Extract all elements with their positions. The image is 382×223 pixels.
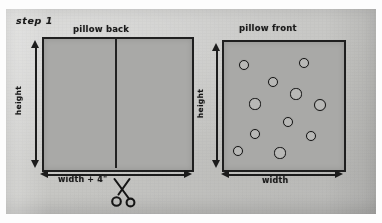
step-label: step 1 <box>16 15 53 26</box>
pillow-front-dot <box>239 60 249 70</box>
pillow-back-width-label: width + 4" <box>58 175 107 184</box>
pillow-front-dot <box>314 99 326 111</box>
diagram-page: step 1 pillow back height width + 4" pil… <box>0 0 382 223</box>
scissors-icon <box>108 176 142 210</box>
pillow-front-dot <box>283 117 293 127</box>
pillow-front-dot <box>299 58 310 69</box>
pillow-back-title: pillow back <box>73 24 129 34</box>
arrow-shaft <box>35 46 37 162</box>
arrow-head-down-icon <box>212 160 220 168</box>
pillow-front-dot <box>268 77 279 88</box>
pillow-front-dot <box>290 88 301 99</box>
arrow-head-right-icon <box>335 170 343 178</box>
arrow-head-right-icon <box>184 170 192 178</box>
pillow-front-width-label: width <box>262 176 288 185</box>
pillow-back-center-seam <box>115 37 117 168</box>
pillow-front-dot <box>274 147 285 158</box>
pillow-front-rectangle <box>222 40 346 172</box>
pillow-front-title: pillow front <box>239 23 297 33</box>
pillow-front-dot <box>250 129 260 139</box>
arrow-head-down-icon <box>31 160 39 168</box>
pillow-front-dot <box>249 98 260 109</box>
pillow-back-height-arrow <box>31 40 40 168</box>
pillow-back-rectangle <box>42 37 194 172</box>
pillow-front-dot <box>233 146 243 156</box>
pillow-front-height-label: height <box>196 88 205 120</box>
pillow-front-height-arrow <box>212 43 221 168</box>
pillow-front-dot <box>306 131 316 141</box>
pillow-back-height-label: height <box>14 85 23 117</box>
arrow-shaft <box>216 49 218 162</box>
